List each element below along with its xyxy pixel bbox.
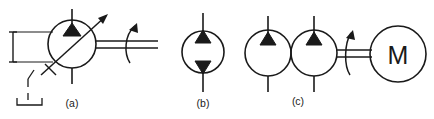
leader-segment-1 [28, 70, 34, 79]
flow-triangle-up-left-c [260, 32, 276, 45]
caption-b: (b) [197, 97, 210, 109]
caption-a: (a) [66, 97, 79, 109]
shaft-rotation-arc-a [126, 26, 135, 63]
dashed-leader-line [17, 70, 42, 105]
symbol-a-group: (a) [9, 9, 158, 109]
motor-rotation-arc-c [346, 33, 351, 75]
leader-bracket [17, 98, 42, 105]
reservoir-bracket [9, 32, 53, 62]
symbol-c-group: M (c) [245, 16, 426, 107]
flow-triangle-up-a [63, 23, 81, 36]
hydraulic-symbols-diagram: (a) (b) [0, 0, 434, 119]
motor-letter-m: M [388, 41, 409, 69]
figure-canvas: (a) (b) [0, 0, 434, 119]
motor-rotation-arrow-head-c [346, 30, 355, 40]
symbol-b-group: (b) [182, 13, 224, 109]
flow-triangle-up-right-c [306, 32, 322, 45]
caption-c: (c) [292, 95, 304, 107]
